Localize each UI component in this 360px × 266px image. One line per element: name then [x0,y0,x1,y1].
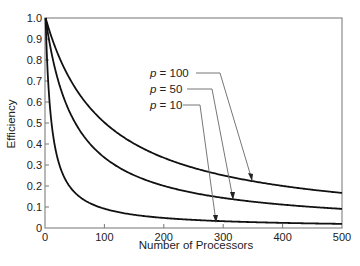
y-tick-label: 0.6 [27,96,42,108]
svg-text:p = 50: p = 50 [149,83,182,95]
y-axis-title: Efficiency [5,99,17,148]
y-tick-label: 1.0 [27,12,42,24]
x-tick-label: 500 [333,231,351,243]
leader-line-p10 [183,105,216,222]
y-tick-label: 0.7 [27,75,42,87]
y-tick-label: 0.9 [27,33,42,45]
x-tick-label: 0 [42,231,48,243]
leader-line-p50 [187,89,233,199]
legend-value-100: 100 [170,67,189,79]
series-curves [46,18,342,224]
legend-eq: = [156,83,169,95]
legend-p10: p = 10 [149,99,218,223]
y-tick-label: 0.1 [27,201,42,213]
y-tick-label: 0.3 [27,159,42,171]
curve-p100 [46,18,342,193]
y-tick-label: 0.4 [27,138,42,150]
x-tick-label: 100 [95,231,113,243]
legend-eq: = [156,67,169,79]
svg-text:p = 10: p = 10 [149,99,182,111]
curve-p50 [46,18,342,209]
legend-value-50: 50 [170,83,183,95]
y-tick-label: 0.5 [27,117,42,129]
y-tick-label: 0.2 [27,180,42,192]
y-tick-label: 0.8 [27,54,42,66]
efficiency-chart: 00.10.20.30.40.50.60.70.80.91.0 01002003… [0,0,360,266]
x-axis-title: Number of Processors [139,239,254,251]
x-tick-label: 400 [273,231,291,243]
svg-text:p = 100: p = 100 [149,67,189,79]
plot-frame [45,18,342,228]
legend-value-10: 10 [170,99,183,111]
legend-eq: = [156,99,169,111]
